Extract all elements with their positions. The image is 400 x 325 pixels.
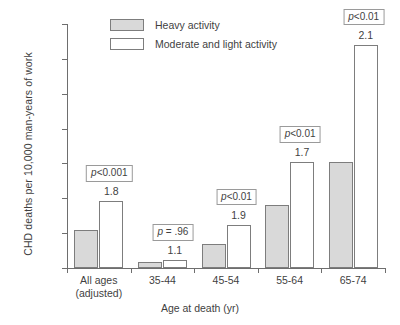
x-tick [67,268,68,273]
ratio-label: 2.1 [344,29,388,41]
p-value-badge: p<0.01 [216,189,257,206]
p-value-badge: p<0.001 [86,165,132,182]
x-group-label: 65-74 [308,274,398,287]
x-tick [131,268,132,273]
y-tick [62,24,68,25]
ratio-label: 1.8 [89,185,133,197]
y-axis-label: CHD deaths per 10,000 man-years of work [22,30,34,278]
y-tick [62,233,68,234]
bar-heavy-activity [329,162,353,268]
bar-heavy-activity [265,205,289,268]
y-axis-line [67,24,68,268]
ratio-label: 1.7 [280,146,324,158]
y-tick [62,198,68,199]
y-tick [62,94,68,95]
x-axis-label: Age at death (yr) [0,302,400,314]
bar-moderate-light-activity [290,162,314,268]
group-label-line: (adjusted) [54,287,144,300]
ratio-label: 1.9 [217,209,261,221]
bar-moderate-light-activity [227,225,251,268]
x-axis-line [67,268,385,269]
y-tick [62,129,68,130]
bar-heavy-activity [138,262,162,268]
x-tick [258,268,259,273]
chd-bar-chart: CHD deaths per 10,000 man-years of work … [0,0,400,325]
x-tick [385,268,386,273]
p-value-badge: p<0.01 [343,9,384,26]
ratio-label: 1.1 [153,244,197,256]
bar-heavy-activity [202,244,226,268]
bar-moderate-light-activity [354,45,378,268]
plot-area: 0255075100125150175 1.8p<0.0011.1p = .96… [67,24,385,268]
x-tick [321,268,322,273]
p-value-badge: p = .96 [152,224,193,241]
x-tick [194,268,195,273]
group-label-line: 65-74 [308,274,398,287]
y-tick [62,163,68,164]
y-tick [62,59,68,60]
bar-moderate-light-activity [99,201,123,268]
p-value-badge: p<0.01 [280,126,321,143]
bar-heavy-activity [74,230,98,268]
bar-moderate-light-activity [163,260,187,268]
